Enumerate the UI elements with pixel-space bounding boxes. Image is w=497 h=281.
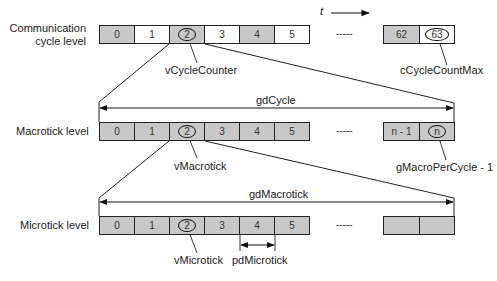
macrotick-cell-n-minus-1: n - 1	[383, 122, 420, 141]
callout-gmacropercycle: gMacroPerCycle - 1	[396, 161, 493, 174]
callout-vmacrotick: vMacrotick	[174, 160, 227, 173]
cell-text: 4	[254, 29, 260, 40]
callout-vmicrotick: vMicrotick	[174, 254, 223, 267]
cell-text: 1	[149, 220, 155, 231]
microtick-cell-0: 0	[99, 216, 135, 235]
ellipsis: -----	[336, 125, 353, 136]
callout-vcyclecounter: vCycleCounter	[165, 64, 237, 77]
cell-text: 4	[254, 220, 260, 231]
cycle-cell-5: 5	[274, 25, 310, 44]
macrotick-cell-2: 2	[169, 122, 205, 141]
circled-cell-text: n	[428, 125, 446, 138]
microtick-cell-last-minus-1	[383, 216, 420, 235]
cycle-cell-0: 0	[99, 25, 135, 44]
ellipsis: -----	[336, 219, 353, 230]
macrotick-cell-0: 0	[99, 122, 135, 141]
cell-text: n - 1	[391, 126, 411, 137]
level-label-microtick: Microtick level	[20, 219, 89, 232]
microtick-cell-3: 3	[204, 216, 240, 235]
cell-text: 0	[114, 126, 120, 137]
cell-text: 1	[149, 126, 155, 137]
cell-text: 1	[149, 29, 155, 40]
cycle-cell-1: 1	[134, 25, 170, 44]
microtick-cell-last	[419, 216, 455, 235]
microtick-cell-1: 1	[134, 216, 170, 235]
callout-ccyclecountmax: cCycleCountMax	[400, 64, 483, 77]
microtick-cell-5: 5	[274, 216, 310, 235]
level-label-communication-cycle: Communication cycle level	[0, 22, 86, 48]
cell-text: 3	[219, 126, 225, 137]
macrotick-cell-3: 3	[204, 122, 240, 141]
cell-text: 62	[396, 29, 407, 40]
callout-pdmicrotick: pdMicrotick	[232, 254, 288, 267]
level-label-macrotick: Macrotick level	[16, 125, 89, 138]
cell-text: 0	[114, 220, 120, 231]
span-label-gdmacrotick: gdMacrotick	[249, 188, 308, 201]
cycle-cell-3: 3	[204, 25, 240, 44]
cycle-cell-62: 62	[383, 25, 420, 44]
circled-cell-text: 2	[178, 219, 196, 232]
microtick-cell-2: 2	[169, 216, 205, 235]
cycle-cell-4: 4	[239, 25, 275, 44]
cell-text: 5	[289, 126, 295, 137]
frame-timing-hierarchy-diagram: t Communication cycle level 0 1 2 3 4 5 …	[0, 0, 497, 281]
cell-text: 5	[289, 220, 295, 231]
circled-cell-text: 2	[178, 125, 196, 138]
cell-text: 3	[219, 220, 225, 231]
cycle-cell-2: 2	[169, 25, 205, 44]
macrotick-cell-4: 4	[239, 122, 275, 141]
circled-cell-text: 2	[178, 28, 196, 41]
macrotick-cell-n: n	[419, 122, 455, 141]
cycle-cell-63: 63	[419, 25, 455, 44]
cell-text: 0	[114, 29, 120, 40]
ellipsis: -----	[336, 28, 353, 39]
macrotick-cell-1: 1	[134, 122, 170, 141]
macrotick-cell-5: 5	[274, 122, 310, 141]
span-label-gdcycle: gdCycle	[256, 94, 296, 107]
microtick-cell-4: 4	[239, 216, 275, 235]
time-axis-label: t	[320, 5, 323, 18]
cell-text: 5	[289, 29, 295, 40]
cell-text: 4	[254, 126, 260, 137]
level-label-line2: cycle level	[0, 35, 86, 48]
circled-cell-text: 63	[425, 28, 448, 41]
level-label-line1: Communication	[0, 22, 86, 35]
cell-text: 3	[219, 29, 225, 40]
